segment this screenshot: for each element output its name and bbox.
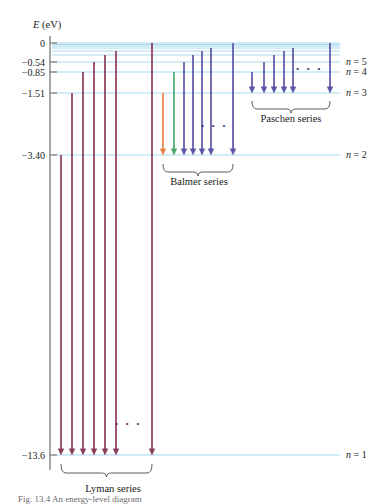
arrow-lyman-5 — [113, 51, 119, 455]
level-label-n5: n = 5 — [346, 56, 367, 67]
arrow-lyman-4 — [102, 55, 108, 455]
arrow-lyman-6-head — [149, 449, 155, 455]
level-label-n1: n = 1 — [346, 449, 367, 460]
bracket-balmer — [163, 164, 233, 176]
ellipsis-lyman: · · · — [114, 416, 141, 431]
series-label-balmer: Balmer series — [170, 176, 227, 187]
arrow-lyman-1-head — [69, 449, 75, 455]
bracket-paschen — [252, 101, 330, 113]
arrow-lyman-2-head — [80, 449, 86, 455]
arrow-lyman-3 — [91, 62, 97, 455]
arrow-paschen-1-head — [261, 87, 267, 93]
arrow-balmer-6 — [230, 43, 236, 155]
arrow-balmer-6-head — [230, 149, 236, 155]
arrow-lyman-0-head — [58, 449, 64, 455]
bracket-lyman — [61, 464, 152, 477]
arrow-balmer-4 — [199, 51, 205, 155]
arrow-lyman-6 — [149, 43, 155, 455]
arrow-balmer-1 — [171, 72, 177, 155]
arrow-balmer-0 — [160, 93, 166, 155]
arrow-lyman-0 — [58, 155, 64, 455]
arrow-balmer-4-head — [199, 149, 205, 155]
axis-tick-label-5: −13.6 — [22, 450, 45, 461]
figure-caption: Fig. 13.4 An energy-level diagram — [18, 494, 378, 504]
arrow-lyman-5-head — [113, 449, 119, 455]
series-lyman-series — [58, 43, 155, 455]
arrow-balmer-3 — [190, 55, 196, 155]
axis-tick-label-0: 0 — [40, 38, 45, 49]
arrow-balmer-2-head — [181, 149, 187, 155]
arrow-balmer-0-head — [160, 149, 166, 155]
series-label-lyman: Lyman series — [85, 483, 141, 494]
energy-level-diagram: n = 1n = 2n = 3n = 4n = 5E (eV)0−0.54−0.… — [0, 0, 385, 504]
arrow-lyman-4-head — [102, 449, 108, 455]
series-label-paschen: Paschen series — [261, 113, 322, 124]
arrow-balmer-3-head — [190, 149, 196, 155]
series-brackets-group — [61, 101, 330, 477]
arrow-balmer-5-head — [208, 149, 214, 155]
axis-label: E (eV) — [32, 19, 62, 31]
arrow-lyman-2 — [80, 72, 86, 455]
level-label-n2: n = 2 — [346, 149, 367, 160]
arrow-paschen-0-head — [249, 87, 255, 93]
arrow-paschen-2 — [271, 55, 277, 93]
arrow-paschen-0 — [249, 72, 255, 93]
arrow-paschen-3-head — [281, 87, 287, 93]
energy-level-lines-group — [52, 43, 340, 455]
ellipsis-balmer: · · · — [200, 118, 227, 133]
diagram-text-group: n = 1n = 2n = 3n = 4n = 5E (eV)0−0.54−0.… — [22, 19, 367, 494]
arrow-lyman-3-head — [91, 449, 97, 455]
energy-axis-group — [50, 36, 57, 470]
arrow-paschen-5-head — [327, 87, 333, 93]
arrow-paschen-2-head — [271, 87, 277, 93]
axis-tick-label-4: −3.40 — [22, 150, 45, 161]
axis-tick-label-2: −0.85 — [22, 67, 45, 78]
series-balmer-series — [160, 43, 236, 155]
diagram-svg: n = 1n = 2n = 3n = 4n = 5E (eV)0−0.54−0.… — [0, 0, 385, 504]
level-label-n3: n = 3 — [346, 87, 367, 98]
arrow-paschen-4-head — [290, 87, 296, 93]
arrow-paschen-1 — [261, 62, 267, 93]
level-label-n4: n = 4 — [346, 66, 367, 77]
arrow-balmer-1-head — [171, 149, 177, 155]
axis-tick-label-3: −1.51 — [22, 88, 45, 99]
arrow-balmer-5 — [208, 48, 214, 155]
ellipsis-paschen: · · · — [295, 61, 322, 76]
arrow-lyman-1 — [69, 93, 75, 455]
transition-arrows-group — [58, 43, 333, 455]
arrow-balmer-2 — [181, 62, 187, 155]
